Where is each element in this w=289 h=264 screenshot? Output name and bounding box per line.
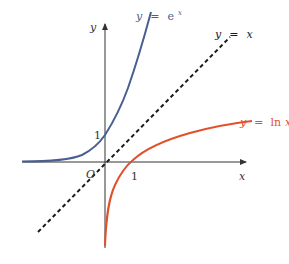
y-axis-label: y [89,21,97,34]
exp-curve-label: y = e x [135,6,182,23]
function-inverse-diagram: y x O 1 1 y = e x y = x y = ln x [0,0,289,264]
exp-curve [22,12,151,162]
identity-line-label: y = x [214,24,253,41]
identity-line [38,37,230,232]
x-tick-label: 1 [131,170,138,183]
y-tick-label: 1 [94,129,101,142]
log-curve-label: y = ln x [239,112,289,129]
diagram-canvas: y x O 1 1 y = e x y = x y = ln x [0,0,289,264]
log-curve [105,121,252,246]
origin-label: O [86,168,95,181]
x-axis-label: x [239,170,246,183]
